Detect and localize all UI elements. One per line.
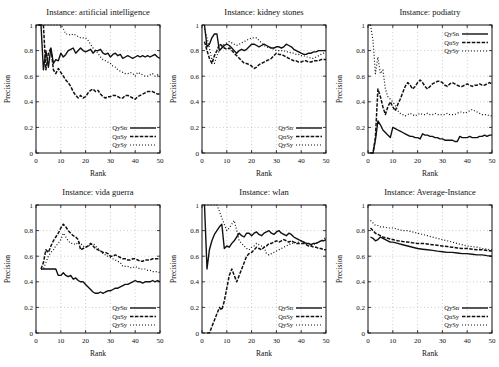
y-tick-label: 0.4: [24, 278, 33, 286]
x-tick-label: 10: [223, 157, 231, 165]
series-QnSy: [207, 240, 326, 333]
y-tick-label: 0.6: [24, 253, 33, 261]
legend-label-QySy: QySy: [112, 321, 128, 328]
y-tick-label: 1: [362, 202, 366, 210]
series-QySn: [205, 205, 327, 269]
x-tick-label: 0: [200, 157, 204, 165]
x-tick-label: 20: [82, 337, 90, 345]
x-tick-label: 0: [366, 157, 370, 165]
subplot-podiatry: Instance: podiatry 0102030405000.20.40.6…: [332, 5, 498, 185]
x-tick-label: 10: [389, 157, 397, 165]
plot-border: [202, 205, 326, 333]
subplot-average-instance: Instance: Average-Instance 0102030405000…: [332, 185, 498, 365]
y-tick-label: 0.8: [356, 47, 365, 55]
legend-label-QySn: QySn: [278, 124, 294, 131]
y-axis-label: Precision: [335, 255, 344, 283]
y-tick-label: 0.2: [356, 304, 365, 312]
x-tick-label: 0: [34, 337, 38, 345]
legend-label-QySn: QySn: [278, 304, 294, 311]
y-tick-label: 0.8: [24, 47, 33, 55]
x-axis-label: Rank: [256, 349, 272, 358]
x-axis-label: Rank: [422, 169, 438, 178]
series-QySn: [205, 25, 327, 54]
x-tick-label: 30: [107, 337, 115, 345]
legend-label-QySn: QySn: [444, 304, 460, 311]
x-tick-label: 40: [132, 157, 140, 165]
y-tick-label: 1: [196, 202, 200, 210]
chart-canvas-kidney-stones: 0102030405000.20.40.60.81RankPrecisionQy…: [166, 18, 332, 185]
y-tick-label: 0.2: [190, 304, 199, 312]
y-tick-label: 0.8: [24, 227, 33, 235]
legend-label-QySn: QySn: [112, 304, 128, 311]
x-tick-label: 10: [57, 157, 65, 165]
y-tick-label: 0.2: [356, 124, 365, 132]
x-tick-label: 40: [464, 157, 472, 165]
legend-label-QnSy: QnSy: [112, 313, 128, 320]
chart-title: Instance: podiatry: [332, 5, 498, 18]
y-tick-label: 0.6: [24, 73, 33, 81]
legend-label-QySy: QySy: [444, 47, 460, 54]
chart-canvas-wlan: 0102030405000.20.40.60.81RankPrecisionQy…: [166, 198, 332, 365]
y-tick-label: 0.6: [190, 253, 199, 261]
series-QySy: [41, 233, 160, 273]
y-tick-label: 0: [362, 150, 366, 158]
legend-label-QySy: QySy: [112, 141, 128, 148]
y-tick-label: 0.2: [24, 304, 33, 312]
x-tick-label: 30: [439, 337, 447, 345]
x-tick-label: 20: [248, 157, 256, 165]
x-tick-label: 0: [34, 157, 38, 165]
y-tick-label: 0: [30, 330, 34, 338]
x-tick-label: 20: [414, 157, 422, 165]
y-tick-label: 0: [362, 330, 366, 338]
legend-label-QnSy: QnSy: [444, 39, 460, 46]
legend-label-QnSy: QnSy: [444, 313, 460, 320]
series-QySn: [39, 25, 161, 70]
x-axis-label: Rank: [90, 349, 106, 358]
chart-canvas-artificial-intelligence: 0102030405000.20.40.60.81RankPrecisionQy…: [0, 18, 166, 185]
y-tick-label: 0.8: [190, 227, 199, 235]
y-tick-label: 0: [30, 150, 34, 158]
series-QnSy: [371, 80, 493, 153]
x-tick-label: 0: [200, 337, 204, 345]
legend-label-QnSy: QnSy: [112, 133, 128, 140]
x-axis-label: Rank: [256, 169, 272, 178]
x-tick-label: 30: [439, 157, 447, 165]
y-axis-label: Precision: [3, 255, 12, 283]
y-tick-label: 0.8: [356, 227, 365, 235]
plot-border: [36, 25, 160, 153]
x-tick-label: 20: [82, 157, 90, 165]
chart-canvas-average-instance: 0102030405000.20.40.60.81RankPrecisionQy…: [332, 198, 498, 365]
chart-title: Instance: Average-Instance: [332, 185, 498, 198]
x-tick-label: 50: [489, 337, 497, 345]
x-tick-label: 40: [132, 337, 140, 345]
x-tick-label: 20: [248, 337, 256, 345]
x-tick-label: 30: [107, 157, 115, 165]
series-QySn: [371, 121, 493, 153]
chart-title: Instance: vida guerra: [0, 185, 166, 198]
legend-label-QySy: QySy: [278, 141, 294, 148]
y-tick-label: 0.6: [356, 73, 365, 81]
y-tick-label: 1: [362, 22, 366, 30]
y-tick-label: 1: [196, 22, 200, 30]
x-axis-label: Rank: [90, 169, 106, 178]
y-tick-label: 0.2: [24, 124, 33, 132]
y-tick-label: 1: [30, 202, 34, 210]
legend-label-QnSy: QnSy: [278, 133, 294, 140]
y-tick-label: 0.6: [190, 73, 199, 81]
y-axis-label: Precision: [335, 75, 344, 103]
series-QySn: [41, 269, 160, 293]
x-tick-label: 50: [157, 157, 165, 165]
x-tick-label: 30: [273, 157, 281, 165]
x-tick-label: 50: [489, 157, 497, 165]
x-tick-label: 0: [366, 337, 370, 345]
series-QySy: [371, 220, 493, 249]
legend-label-QySy: QySy: [444, 321, 460, 328]
legend-label-QySn: QySn: [444, 30, 460, 37]
legend-label-QySy: QySy: [278, 321, 294, 328]
subplot-wlan: Instance: wlan 0102030405000.20.40.60.81…: [166, 185, 332, 365]
y-tick-label: 0.4: [356, 98, 365, 106]
figure-grid: Instance: artificial intelligence 010203…: [0, 0, 499, 367]
subplot-kidney-stones: Instance: kidney stones 0102030405000.20…: [166, 5, 332, 185]
x-tick-label: 50: [323, 337, 331, 345]
y-axis-label: Precision: [3, 75, 12, 103]
